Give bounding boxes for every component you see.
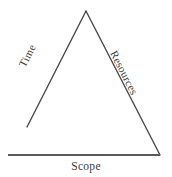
triangle-shape	[0, 0, 172, 177]
diagram-canvas: Time Resources Scope	[0, 0, 172, 177]
label-scope: Scope	[0, 161, 172, 173]
triangle-left-leg	[27, 11, 86, 127]
